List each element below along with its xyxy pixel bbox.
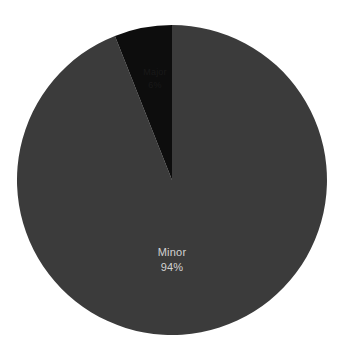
pie-slice-minor-label: Minor <box>158 246 187 258</box>
pie-slice-major-label: Major <box>143 67 167 77</box>
pie-chart-container: Minor 94% Major 6% <box>0 0 344 361</box>
pie-chart-svg: Minor 94% Major 6% <box>0 0 344 361</box>
pie-slice-major-percent: 6% <box>148 80 161 90</box>
pie-slice-minor-percent: 94% <box>161 261 184 273</box>
